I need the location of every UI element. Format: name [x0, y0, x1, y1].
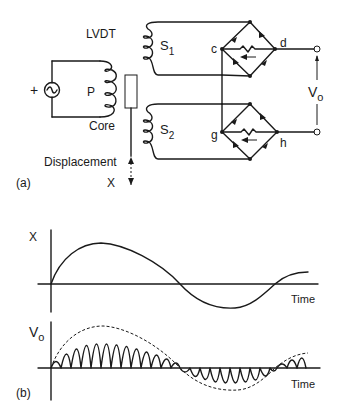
terminal-icon	[314, 129, 320, 135]
s1-label: S1	[160, 38, 175, 57]
output-terminals: Vo	[275, 46, 323, 135]
rectifier-bridge-2: g h	[211, 102, 287, 161]
sine-wave-icon	[47, 87, 57, 93]
core-label: Core	[89, 119, 115, 133]
vo-plot-xlabel: Time	[291, 378, 315, 390]
arrow-down-icon	[128, 178, 134, 185]
displacement-label: Displacement	[44, 155, 117, 169]
displacement-curve	[51, 243, 308, 308]
node-h-label: h	[280, 136, 287, 150]
x-plot-ylabel: X	[29, 230, 37, 244]
node-g-label: g	[211, 128, 218, 142]
waveform-x-plot: X Time	[29, 230, 318, 312]
circuit-diagram: LVDT + P Core Displacement X (a)	[16, 20, 323, 190]
node-d-label: d	[280, 36, 287, 50]
rectified-output-curve	[51, 344, 306, 383]
core-rod	[125, 75, 137, 108]
primary-coil-icon	[100, 61, 116, 117]
vo-label: Vo	[308, 84, 323, 103]
source-plus-label: +	[30, 82, 38, 98]
lvdt-figure: LVDT + P Core Displacement X (a)	[0, 0, 346, 418]
primary-coil: P	[87, 61, 116, 117]
current-arrow-icon	[240, 54, 247, 60]
arrow-up-icon	[315, 55, 319, 61]
displacement-x-label: X	[107, 176, 115, 190]
vo-plot-ylabel: Vo	[29, 324, 44, 343]
current-arrow-icon	[241, 137, 248, 143]
primary-label: P	[87, 85, 95, 99]
part-b-label: (b)	[16, 386, 31, 400]
resistor-2	[222, 129, 277, 135]
rectifier-bridge-1: c d	[211, 20, 287, 104]
s2-label: S2	[160, 122, 175, 141]
terminal-icon	[314, 46, 320, 52]
resistor-1	[222, 46, 275, 52]
part-a-label: (a)	[16, 176, 31, 190]
waveform-vo-plot: Vo Time (b)	[16, 322, 320, 400]
lvdt-label: LVDT	[86, 27, 116, 41]
x-plot-xlabel: Time	[291, 293, 315, 305]
node-c-label: c	[211, 42, 217, 56]
arrow-up-icon	[128, 157, 134, 164]
